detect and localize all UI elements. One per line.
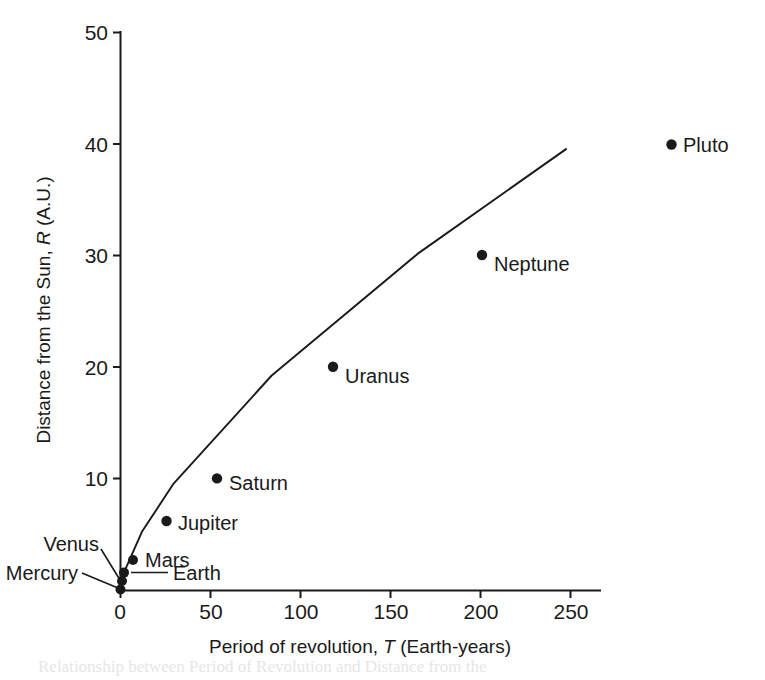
figure-caption-strip: Relationship between Period of Revolutio… [0,655,765,680]
x-tick-label-250: 250 [553,600,588,623]
y-tick-marks [113,33,121,479]
y-axis-title-suffix: (A.U.) [33,176,54,231]
planet-distance-vs-period-chart: 50 40 30 20 10 0 50 100 150 200 250 Peri… [0,0,765,680]
point-label-saturn: Saturn [229,472,288,494]
figure-container: 50 40 30 20 10 0 50 100 150 200 250 Peri… [0,0,765,680]
point-label-neptune: Neptune [494,253,570,275]
x-tick-labels: 0 50 100 150 200 250 [114,600,588,623]
x-axis-title: Period of revolution, T (Earth-years) [209,636,511,657]
mercury-leader-line [82,573,118,588]
data-point-jupiter[interactable] [161,516,171,526]
data-point-labels: Mercury Venus Earth Mars Jupiter Saturn … [6,134,729,584]
point-label-uranus: Uranus [345,365,409,387]
data-point-saturn[interactable] [212,473,222,483]
data-point-venus[interactable] [117,576,127,586]
y-tick-label-40: 40 [85,133,108,156]
point-label-pluto: Pluto [683,134,729,156]
axes-group [121,32,601,591]
data-point-pluto[interactable] [666,139,676,149]
point-label-mercury: Mercury [6,562,78,584]
data-point-neptune[interactable] [477,250,487,260]
y-axis-title-symbol: R [33,231,54,245]
point-label-venus: Venus [43,533,99,555]
x-axis-title-suffix: (Earth-years) [395,636,511,657]
data-point-mercury[interactable] [116,585,126,595]
x-tick-label-100: 100 [283,600,318,623]
x-tick-label-50: 50 [199,600,222,623]
figure-caption-text: Relationship between Period of Revolutio… [38,657,487,677]
data-point-mars[interactable] [128,555,138,565]
y-tick-label-30: 30 [85,244,108,267]
x-tick-label-200: 200 [463,600,498,623]
y-tick-label-50: 50 [85,21,108,44]
x-tick-marks [121,591,571,599]
y-tick-label-10: 10 [85,467,108,490]
venus-leader-line [101,549,120,580]
data-point-earth[interactable] [119,568,129,578]
point-label-jupiter: Jupiter [178,512,238,534]
y-tick-labels: 50 40 30 20 10 [85,21,108,490]
data-point-uranus[interactable] [328,362,338,372]
x-axis-title-prefix: Period of revolution, [209,636,383,657]
y-tick-label-20: 20 [85,356,108,379]
y-axis-title-prefix: Distance from the Sun, [33,245,54,444]
x-tick-label-0: 0 [114,600,126,623]
y-axis-title: Distance from the Sun, R (A.U.) [33,176,54,443]
x-tick-label-150: 150 [373,600,408,623]
point-label-mars: Mars [145,549,189,571]
